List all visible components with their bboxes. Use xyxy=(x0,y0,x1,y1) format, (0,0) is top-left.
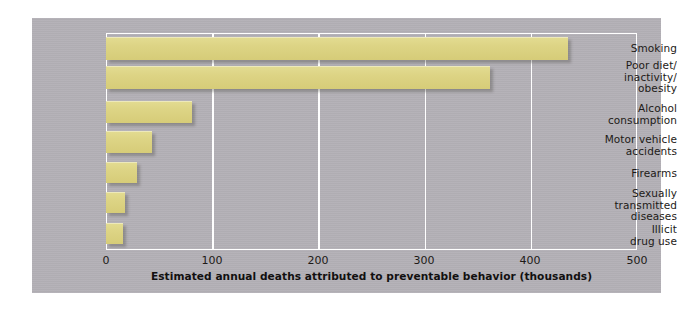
bar-alcohol[interactable] xyxy=(106,101,192,123)
bar-illicit-drugs[interactable] xyxy=(106,223,123,244)
xtick-400: 400 xyxy=(520,254,541,267)
bar-row xyxy=(106,223,637,244)
xtick-100: 100 xyxy=(202,254,223,267)
bar-row xyxy=(106,131,637,153)
figure: Smoking Poor diet/ inactivity/ obesity A… xyxy=(0,0,677,314)
xtick-300: 300 xyxy=(414,254,435,267)
bar-row xyxy=(106,101,637,123)
bar-row xyxy=(106,37,637,60)
bar-row xyxy=(106,66,637,89)
bar-poor-diet[interactable] xyxy=(106,66,490,89)
xtick-500: 500 xyxy=(627,254,648,267)
bar-smoking[interactable] xyxy=(106,37,568,60)
bar-row xyxy=(106,162,637,183)
bar-firearms[interactable] xyxy=(106,162,137,183)
xtick-200: 200 xyxy=(308,254,329,267)
bar-std[interactable] xyxy=(106,192,125,213)
xtick-0: 0 xyxy=(103,254,110,267)
x-axis-title: Estimated annual deaths attributed to pr… xyxy=(106,270,637,282)
bar-motor-vehicle[interactable] xyxy=(106,131,152,153)
bar-row xyxy=(106,192,637,213)
